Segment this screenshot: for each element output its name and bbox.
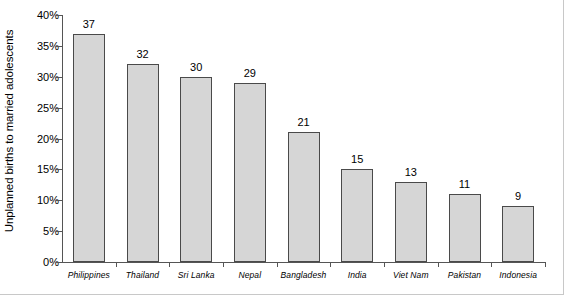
y-axis-title: Unplanned births to married adolescents (0, 0, 18, 262)
y-axis-tick-label: 25% (21, 102, 59, 114)
x-axis-tick-mark (223, 262, 224, 267)
y-axis-tick-mark (56, 108, 62, 109)
y-axis-tick-mark (56, 77, 62, 78)
y-axis-tick-mark (56, 169, 62, 170)
bar (288, 132, 320, 262)
bar-chart: Unplanned births to married adolescents … (0, 0, 564, 295)
y-axis-tick-label: 10% (21, 194, 59, 206)
bar (234, 83, 266, 262)
x-axis-tick-mark (384, 262, 385, 267)
bar (502, 206, 534, 262)
x-axis-tick-mark (116, 262, 117, 267)
y-axis-tick-label: 15% (21, 163, 59, 175)
bar (341, 169, 373, 262)
bar-value-label: 37 (64, 18, 114, 30)
y-axis-tick-label: 5% (21, 225, 59, 237)
y-axis-tick-labels: 0%5%10%15%20%25%30%35%40% (19, 0, 59, 295)
y-axis-tick-label: 0% (21, 256, 59, 268)
y-axis-tick-mark (56, 46, 62, 47)
y-axis-tick-mark (56, 15, 62, 16)
bar (449, 194, 481, 262)
x-axis-line (62, 262, 546, 263)
x-axis-tick-mark (545, 262, 546, 267)
y-axis-tick-mark (56, 139, 62, 140)
y-axis-tick-label: 30% (21, 71, 59, 83)
x-axis-tick-mark (169, 262, 170, 267)
bar-value-label: 32 (118, 48, 168, 60)
y-axis-tick-mark (56, 200, 62, 201)
x-axis-tick-mark (438, 262, 439, 267)
y-axis-tick-mark (56, 262, 62, 263)
bar (127, 64, 159, 262)
y-axis-tick-label: 40% (21, 9, 59, 21)
bar-value-label: 11 (440, 178, 490, 190)
y-axis-tick-label: 35% (21, 40, 59, 52)
x-axis-tick-mark (277, 262, 278, 267)
x-axis-category-label: Indonesia (473, 270, 563, 280)
bar (180, 77, 212, 262)
bar-value-label: 30 (171, 61, 221, 73)
bar-value-label: 29 (225, 67, 275, 79)
bar-value-label: 13 (386, 166, 436, 178)
plot-area: 37323029211513119 (62, 15, 545, 262)
x-axis-tick-mark (491, 262, 492, 267)
bar-value-label: 15 (332, 153, 382, 165)
x-axis-tick-mark (330, 262, 331, 267)
bar (73, 34, 105, 262)
bar (395, 182, 427, 262)
y-axis-tick-mark (56, 231, 62, 232)
bar-value-label: 9 (493, 190, 543, 202)
y-axis-tick-label: 20% (21, 133, 59, 145)
bar-value-label: 21 (279, 116, 329, 128)
